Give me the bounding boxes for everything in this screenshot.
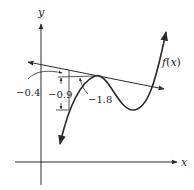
annotation-label: −1.8 — [88, 94, 112, 105]
arrow-04 — [28, 71, 62, 79]
x-axis-label: x — [181, 156, 188, 169]
annotation-label: −0.9 — [48, 89, 72, 100]
curve-label: f(x) — [161, 56, 181, 69]
y-axis-label: y — [37, 6, 45, 19]
arrow-18 — [80, 78, 88, 94]
function-curve — [60, 32, 166, 144]
annotation-label: −0.4 — [16, 87, 40, 98]
function-diagram: y x f(x) −0.4 −0.9 −1.8 — [0, 0, 194, 190]
measure-horizontal-line — [58, 76, 95, 77]
